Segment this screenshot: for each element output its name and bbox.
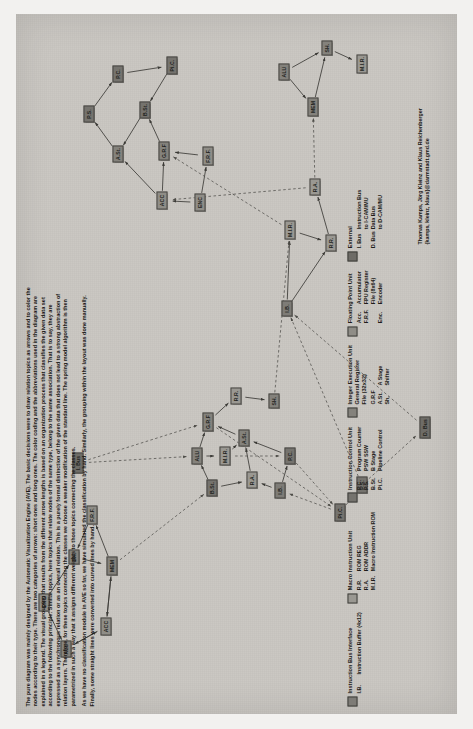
legend-description: Shifter	[383, 368, 390, 385]
graph-edge	[149, 119, 159, 141]
legend-row: P.C.Program Counter	[355, 426, 362, 489]
legend-group: Instruction Control UnitP.C.Program Coun…	[346, 426, 383, 502]
legend-description: ROM ADDR	[362, 541, 369, 570]
legend-abbreviation: Sh.	[383, 385, 390, 404]
legend-group-title: Instruction Bus Interface	[346, 612, 353, 693]
legend-color-swatch	[347, 407, 357, 417]
legend-description: Accumulator	[355, 271, 362, 304]
legend-group: Macro Instruction UnitR.R.ROM REGR.A.ROM…	[346, 511, 376, 602]
graph-edge	[107, 576, 111, 616]
legend-color-swatch	[347, 251, 357, 261]
graph-edge	[88, 425, 197, 459]
graph-node-mem: MEM	[106, 556, 117, 575]
legend-description: ROM REG	[355, 545, 362, 571]
graph-edge	[215, 403, 228, 415]
legend-row: P.S.PSW SSW	[362, 426, 369, 489]
legend-group-body: Macro Instruction UnitR.R.ROM REGR.A.ROM…	[346, 511, 376, 589]
legend-description: Data Bus	[369, 205, 376, 228]
graph-node-acc: ACC	[100, 617, 111, 635]
graph-node-pc: P.C.	[284, 447, 295, 464]
legend-abbreviation: Enc.	[376, 304, 383, 323]
graph-edge	[88, 456, 186, 462]
graph-edge	[313, 118, 315, 178]
legend-color-swatch	[347, 696, 357, 706]
legend-row: to I-CAM/MU	[362, 189, 369, 248]
legend-rows: I. BusInstruction Busto I-CAM/MUD. BusDa…	[355, 189, 383, 248]
graph-node-rr: R.R.	[230, 387, 241, 404]
legend-rows: Acc.AccumulatorF.R.F.FPU RegisterFile (8…	[355, 270, 383, 323]
legend-row: to D-CAM/MU	[376, 189, 383, 248]
legend-rows: G.R.FA.St.A StageSh.Shifter	[369, 345, 390, 404]
graph-edge	[216, 427, 331, 506]
graph-node-ra2: R.A.	[309, 178, 320, 195]
legend-abbreviation: Acc.	[355, 304, 362, 323]
graph-edge	[218, 426, 235, 434]
graph-node-grf2: G.R.F	[158, 141, 169, 160]
graph-node-pc2: P.C.	[112, 65, 123, 82]
legend-abbreviation: I.B.	[355, 674, 362, 693]
legend-row: M.I.R.Macro Instruction ROM	[369, 511, 376, 589]
legend-group-body: Floating Point UnitAcc.AccumulatorF.R.F.…	[346, 270, 383, 323]
graph-node-ib2: I.B.	[274, 482, 285, 498]
legend-description: Program Counter	[355, 426, 362, 470]
graph-edge	[232, 445, 236, 449]
graph-edge	[292, 52, 318, 67]
legend-abbreviation: D. Bus	[369, 229, 376, 248]
graph-node-frf2: F.R.F.	[202, 146, 213, 165]
legend-abbreviation: B.St.	[369, 470, 376, 489]
graph-edge	[296, 463, 333, 504]
graph-node-alu2: ALU	[191, 447, 202, 464]
graph-edge	[125, 161, 155, 193]
legend-description: B Stage	[369, 450, 376, 470]
legend-abbreviation: G.R.F	[369, 385, 376, 404]
graph-node-alu3: ALU	[278, 63, 289, 80]
graph-edge	[120, 494, 204, 559]
legend-row: Enc.Encoder	[376, 270, 383, 323]
graph-node-mir2: M.I.R.	[284, 220, 295, 239]
graph-node-bst: B.St.	[206, 479, 217, 496]
graph-edge	[292, 251, 325, 300]
legend-color-swatch	[347, 593, 357, 603]
graph-node-acc2: ACC	[156, 191, 167, 209]
legend-group: ExternalI. BusInstruction Busto I-CAM/MU…	[346, 189, 383, 261]
graph-edge	[173, 156, 281, 224]
legend-description: Instruction Buffer (4x12)	[355, 612, 362, 674]
legend-abbreviation: Pi.C.	[376, 470, 383, 489]
graph-node-mem3: MEM	[307, 97, 318, 116]
graph-edge	[150, 73, 167, 100]
legend-color-swatch	[347, 492, 357, 502]
legend-description: A Stage	[376, 365, 383, 385]
graph-node-ib3: I.B.	[281, 300, 292, 316]
legend-abbreviation	[376, 229, 383, 248]
graph-edge	[201, 465, 208, 479]
legend-abbreviation: R.R.	[355, 571, 362, 590]
legend-row: R.R.ROM REG	[355, 511, 362, 589]
legend-rows: I.B.Instruction Buffer (4x12)	[355, 612, 362, 693]
legend-abbreviation	[369, 304, 376, 323]
graph-edge	[107, 577, 111, 617]
rotated-figure-layer: ALUENCACCSH.F.R.F.MEMI. BusB.St.ALUM.I.R…	[16, 14, 457, 714]
graph-node-ps2: P.S.	[83, 105, 94, 122]
legend-group-body: ExternalI. BusInstruction Busto I-CAM/MU…	[346, 189, 383, 248]
legend-abbreviation: R.A.	[362, 571, 369, 590]
legend-abbreviation: M.I.R.	[369, 571, 376, 590]
legend-group-body: Integer Execution UnitGeneral RegisterFi…	[346, 345, 390, 404]
graph-node-sh3: SH.	[268, 393, 279, 408]
graph-edge	[287, 241, 289, 299]
figure-description: The pure diagram was mainly designed by …	[24, 286, 99, 706]
graph-edge	[245, 397, 264, 400]
legend-group-title: Macro Instruction Unit	[346, 511, 353, 589]
graph-edge	[199, 432, 204, 447]
legend-group-title: Integer Execution Unit	[346, 345, 353, 404]
legend-row: I.B.Instruction Buffer (4x12)	[355, 612, 362, 693]
legend-group-title: General Register	[353, 345, 360, 404]
graph-node-grf: G.R.F	[202, 412, 213, 431]
graph-node-pic2: Pi.C.	[166, 56, 177, 74]
graph-node-mir: M.I.R.	[219, 446, 230, 465]
legend-rows: P.C.Program CounterP.S.PSW SSWB.St.B Sta…	[355, 426, 383, 489]
legend-abbreviation: P.S.	[362, 470, 369, 489]
legend-row: D. BusData Bus	[369, 189, 376, 248]
legend-row: G.R.F	[369, 345, 376, 404]
graph-edge	[290, 79, 306, 98]
legend-abbreviation: I. Bus	[355, 229, 362, 248]
